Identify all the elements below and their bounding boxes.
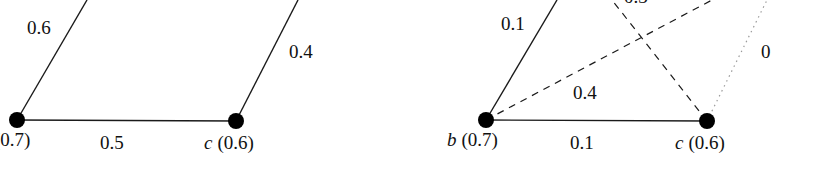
node-b	[478, 112, 494, 128]
right-panel: 0.1 0.4 0.3 0 0.1 b(0.7) c(0.6)	[447, 0, 771, 154]
graph-diagram: 0.6 0.4 0.5 (0.7) c(0.6) 0.1 0.4 0.3 0 0…	[0, 0, 826, 172]
edge-weight-b-c: 0.5	[100, 132, 124, 153]
edge-c-top-left-dashed	[612, 0, 707, 121]
node-c-score: (0.6)	[688, 132, 724, 154]
node-b-score: (0.7)	[462, 129, 498, 151]
node-b-label: b(0.7)	[447, 129, 498, 151]
node-c-name: c	[675, 132, 684, 153]
edge-weight-c-dotted: 0	[761, 41, 771, 62]
edge-b-c	[486, 120, 707, 121]
node-c-label: c(0.6)	[675, 132, 725, 154]
edge-weight-b-c: 0.1	[570, 132, 594, 153]
node-c-label: c(0.6)	[204, 132, 254, 154]
edge-c-top-right-dotted	[707, 0, 767, 121]
node-b-name: b	[447, 129, 457, 150]
node-c-name: c	[204, 132, 213, 153]
edge-weight-b-top: 0.6	[27, 17, 51, 38]
node-c-score: (0.6)	[217, 132, 253, 154]
left-panel: 0.6 0.4 0.5 (0.7) c(0.6)	[0, 0, 313, 154]
node-c	[699, 113, 715, 129]
edge-weight-c-top: 0.4	[289, 41, 313, 62]
node-c	[228, 113, 244, 129]
edge-b-c	[17, 120, 236, 121]
edge-weight-c-dashed: 0.3	[624, 0, 648, 7]
node-b	[9, 112, 25, 128]
edge-weight-b-dashed: 0.4	[573, 82, 597, 103]
node-b-label: (0.7)	[0, 129, 30, 151]
edge-weight-b-top: 0.1	[501, 13, 525, 34]
